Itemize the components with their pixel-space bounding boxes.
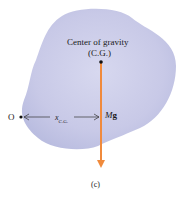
mass-symbol: M bbox=[105, 110, 113, 120]
origin-point bbox=[19, 115, 22, 118]
cg-point bbox=[99, 60, 103, 64]
gravity-symbol: g bbox=[113, 110, 118, 120]
cg-abbr-label: (C.G.) bbox=[88, 48, 111, 58]
cg-title-label: Center of gravity bbox=[67, 37, 128, 47]
force-label: Mg bbox=[105, 110, 117, 120]
diagram-canvas bbox=[0, 0, 180, 203]
irregular-body-shape bbox=[22, 9, 176, 150]
weight-force-arrowhead bbox=[97, 160, 105, 168]
origin-label: O bbox=[8, 112, 15, 122]
center-of-gravity-diagram: Center of gravity (C.G.) O xC.G. Mg (c) bbox=[0, 0, 180, 203]
distance-subscript: C.G. bbox=[59, 119, 68, 124]
distance-label: xC.G. bbox=[55, 113, 68, 124]
figure-caption: (c) bbox=[91, 180, 100, 189]
